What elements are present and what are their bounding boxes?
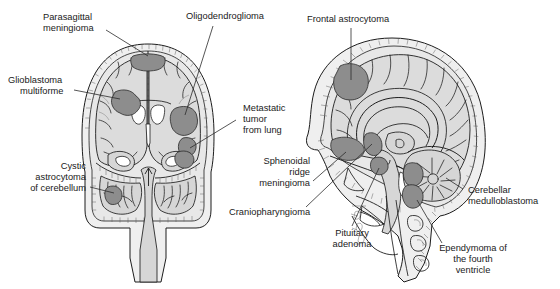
label-line: Oligodendroglioma xyxy=(186,11,265,21)
label-line: tumor xyxy=(243,114,267,124)
tumor-cerebellar-medulloblastoma xyxy=(403,163,423,186)
label-line: the fourth xyxy=(453,254,492,264)
label-line: of cerebellum xyxy=(30,183,86,193)
label-line: Pituitary xyxy=(335,228,369,238)
brain-tumor-locations-figure: Parasagittal meningioma Glioblastoma mul… xyxy=(0,0,560,289)
label-line: meningioma xyxy=(259,178,310,188)
label-line: Craniopharyngioma xyxy=(229,207,311,217)
label-line: astrocytoma xyxy=(35,172,86,182)
label-glioblastoma-multiforme: Glioblastoma multiforme xyxy=(8,75,63,96)
label-line: multiforme xyxy=(20,86,63,96)
label-sphenoidal-ridge-meningioma: Sphenoidal ridge meningioma xyxy=(259,156,310,188)
label-metastatic-tumor-from-lung: Metastatic tumor from lung xyxy=(243,103,286,135)
label-line: adenoma xyxy=(333,239,373,249)
label-line: Frontal astrocytoma xyxy=(307,14,390,24)
label-line: Ependymoma of xyxy=(439,243,507,253)
coronal-section-panel: Parasagittal meningioma Glioblastoma mul… xyxy=(8,11,286,282)
tumor-metastatic-lung-lower xyxy=(175,151,194,168)
label-ependymoma-fourth-ventricle: Ependymoma of the fourth ventricle xyxy=(439,243,507,275)
label-cystic-astrocytoma: Cystic astrocytoma of cerebellum xyxy=(30,161,87,193)
label-line: meningioma xyxy=(43,23,94,33)
label-line: ridge xyxy=(289,167,310,177)
label-line: Metastatic xyxy=(243,103,286,113)
label-line: from lung xyxy=(243,125,282,135)
tumor-oligodendroglioma xyxy=(170,106,197,135)
label-pituitary-adenoma: Pituitary adenoma xyxy=(333,228,373,249)
tumor-pituitary-adenoma xyxy=(370,157,388,175)
label-cerebellar-medulloblastoma: Cerebellar medulloblastoma xyxy=(468,185,539,206)
label-frontal-astrocytoma: Frontal astrocytoma xyxy=(307,14,390,24)
label-line: Sphenoidal xyxy=(263,156,310,166)
label-line: Glioblastoma xyxy=(8,75,63,85)
label-line: Parasagittal xyxy=(43,12,92,22)
label-parasagittal-meningioma: Parasagittal meningioma xyxy=(43,12,94,33)
label-line: Cerebellar xyxy=(468,185,511,195)
label-craniopharyngioma: Craniopharyngioma xyxy=(229,207,311,217)
sagittal-section-panel: Frontal astrocytoma Sphenoidal ridge men… xyxy=(229,14,539,282)
label-line: ventricle xyxy=(456,265,491,275)
label-line: medulloblastoma xyxy=(468,196,539,206)
label-oligodendroglioma: Oligodendroglioma xyxy=(186,11,265,21)
tumor-cystic-astrocytoma-cerebellum xyxy=(105,186,122,205)
label-line: Cystic xyxy=(61,161,87,171)
tumor-parasagittal-meningioma xyxy=(131,54,165,71)
